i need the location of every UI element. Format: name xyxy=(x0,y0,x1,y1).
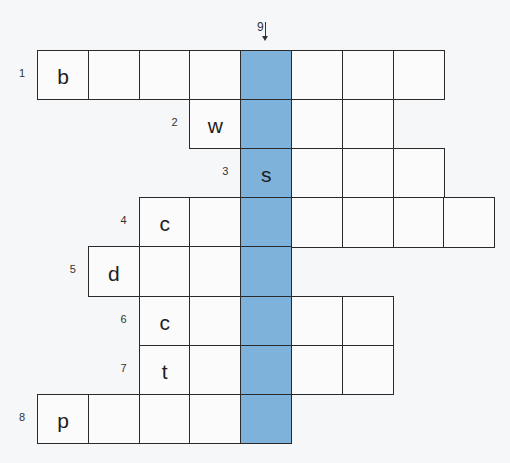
grid-cell-r5-c5[interactable] xyxy=(240,246,292,296)
grid-cell-r8-c4[interactable] xyxy=(189,394,241,444)
grid-cell-r6-c6[interactable] xyxy=(291,296,343,346)
grid-cell-r1-c5[interactable] xyxy=(240,50,292,100)
grid-cell-r2-c4[interactable]: w xyxy=(189,99,241,149)
grid-cell-r1-c6[interactable] xyxy=(291,50,343,100)
grid-cell-r2-c6[interactable] xyxy=(291,99,343,149)
clue-number-2: 2 xyxy=(171,116,177,128)
clue-number-8: 8 xyxy=(19,411,25,423)
grid-cell-r4-c3[interactable]: c xyxy=(139,197,191,247)
clue-number-7: 7 xyxy=(121,362,127,374)
grid-cell-r8-c3[interactable] xyxy=(139,394,191,444)
grid-cell-r7-c6[interactable] xyxy=(291,345,343,395)
grid-cell-r4-c7[interactable] xyxy=(342,197,394,247)
grid-cell-r1-c2[interactable] xyxy=(88,50,140,100)
clue-number-6: 6 xyxy=(121,313,127,325)
clue-number-5: 5 xyxy=(70,263,76,275)
grid-cell-r5-c4[interactable] xyxy=(189,246,241,296)
crossword-grid: 9 1b2w3s4c5d6c7t8p xyxy=(0,0,510,463)
grid-cell-r7-c5[interactable] xyxy=(240,345,292,395)
grid-cell-r7-c4[interactable] xyxy=(189,345,241,395)
grid-cell-r4-c8[interactable] xyxy=(393,197,445,247)
grid-cell-r1-c4[interactable] xyxy=(189,50,241,100)
grid-cell-r6-c4[interactable] xyxy=(189,296,241,346)
grid-cell-r7-c3[interactable]: t xyxy=(139,345,191,395)
grid-cell-r1-c8[interactable] xyxy=(393,50,445,100)
grid-cell-r4-c6[interactable] xyxy=(291,197,343,247)
grid-cell-r5-c3[interactable] xyxy=(139,246,191,296)
grid-cell-r3-c5[interactable]: s xyxy=(240,148,292,198)
grid-cell-r2-c7[interactable] xyxy=(342,99,394,149)
grid-cell-r8-c2[interactable] xyxy=(88,394,140,444)
grid-cell-r5-c2[interactable]: d xyxy=(88,246,140,296)
grid-cell-r7-c7[interactable] xyxy=(342,345,394,395)
grid-cell-r2-c5[interactable] xyxy=(240,99,292,149)
grid-cell-r6-c3[interactable]: c xyxy=(139,296,191,346)
grid-cell-r6-c7[interactable] xyxy=(342,296,394,346)
grid-cell-r8-c5[interactable] xyxy=(240,394,292,444)
grid-cell-r4-c5[interactable] xyxy=(240,197,292,247)
grid-cell-r1-c1[interactable]: b xyxy=(37,50,89,100)
grid-cell-r1-c7[interactable] xyxy=(342,50,394,100)
grid-cell-r3-c6[interactable] xyxy=(291,148,343,198)
grid-cell-r6-c5[interactable] xyxy=(240,296,292,346)
grid-cell-r3-c7[interactable] xyxy=(342,148,394,198)
grid-cell-r8-c1[interactable]: p xyxy=(37,394,89,444)
clue-number-4: 4 xyxy=(121,214,127,226)
grid-cell-r4-c9[interactable] xyxy=(443,197,495,247)
grid-cell-r4-c4[interactable] xyxy=(189,197,241,247)
clue-number-1: 1 xyxy=(19,67,25,79)
grid-cell-r3-c8[interactable] xyxy=(393,148,445,198)
clue-number-3: 3 xyxy=(222,165,228,177)
down-arrow-icon xyxy=(265,22,266,38)
grid-cell-r1-c3[interactable] xyxy=(139,50,191,100)
clue-9-down-number: 9 xyxy=(257,20,264,34)
